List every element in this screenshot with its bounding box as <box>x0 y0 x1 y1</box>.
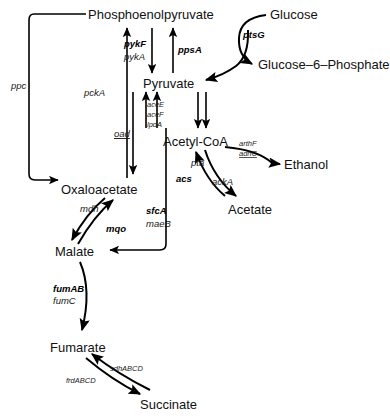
gene-adhC: adhC <box>239 149 258 158</box>
metabolite-fumarate: Fumarate <box>50 340 106 355</box>
gene-pykF: pykF <box>123 38 146 49</box>
gene-sfcA: sfcA <box>146 205 167 216</box>
gene-frdABCD: frdABCD <box>66 376 96 385</box>
metabolite-pep: Phosphoenolpyruvate <box>88 7 214 22</box>
gene-lpdA: lpdA <box>147 120 162 129</box>
metabolite-acetate: Acetate <box>228 202 272 217</box>
gene-pckA: pckA <box>83 87 105 98</box>
gene-pta: pta <box>190 157 204 168</box>
gene-ptsG: ptsG <box>242 29 265 40</box>
pathway-svg: Phosphoenolpyruvate Glucose Glucose–6–Ph… <box>0 0 390 416</box>
gene-maeB: maeB <box>146 218 171 229</box>
gene-fumC: fumC <box>53 295 76 306</box>
pathway-diagram: Phosphoenolpyruvate Glucose Glucose–6–Ph… <box>0 0 390 416</box>
gene-sdhABCD: sdhABCD <box>110 364 144 373</box>
metabolite-g6p: Glucose–6–Phosphate <box>258 57 390 72</box>
gene-arthF: arthF <box>239 139 257 148</box>
arrow-pta-ackA <box>205 150 236 196</box>
gene-mqo: mqo <box>106 223 126 234</box>
arrow-ppc <box>29 14 86 180</box>
gene-ppc: ppc <box>10 80 27 91</box>
gene-oad: oad <box>114 128 131 139</box>
metabolite-pyruvate: Pyruvate <box>143 76 194 91</box>
gene-aceE: aceE <box>147 100 165 109</box>
gene-fumAB: fumAB <box>53 283 84 294</box>
gene-ackA: ackA <box>212 176 233 187</box>
gene-acs: acs <box>176 173 192 184</box>
metabolite-glucose: Glucose <box>270 7 318 22</box>
metabolite-malate: Malate <box>55 244 94 259</box>
arrow-fumarase <box>80 262 87 330</box>
gene-aceF: aceF <box>147 110 164 119</box>
metabolite-oxaloacetate: Oxaloacetate <box>61 182 138 197</box>
metabolite-succinate: Succinate <box>140 397 197 412</box>
gene-mdh: mdh <box>80 203 98 214</box>
gene-ppsA: ppsA <box>177 44 202 55</box>
metabolite-ethanol: Ethanol <box>284 157 328 172</box>
gene-pykA: pykA <box>123 51 145 62</box>
metabolite-acetyl-coa: Acetyl-CoA <box>163 134 228 149</box>
